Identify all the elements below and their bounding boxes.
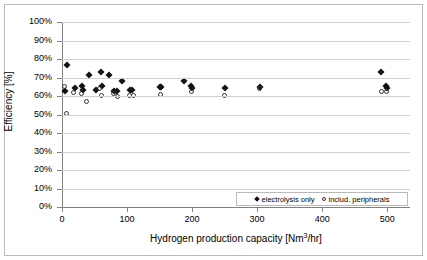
gridline — [62, 133, 410, 134]
y-axis-title: Efficiency [%] — [3, 22, 14, 182]
data-point-electrolysis-only — [64, 61, 71, 68]
gridline — [62, 170, 410, 171]
gridline — [62, 22, 410, 23]
data-point-includ-peripherals — [97, 86, 102, 91]
x-tick-label: 200 — [172, 214, 212, 224]
gridline — [62, 115, 410, 116]
x-axis-title: Hydrogen production capacity [Nm3/hr] — [62, 232, 410, 244]
data-point-includ-peripherals — [71, 90, 76, 95]
y-tick-label: 10% — [0, 184, 52, 193]
x-tick-label: 400 — [302, 214, 342, 224]
x-tick-label: 100 — [107, 214, 147, 224]
data-point-electrolysis-only — [97, 68, 104, 75]
data-point-includ-peripherals — [384, 89, 389, 94]
y-axis-title-text: Efficiency [%] — [3, 72, 14, 132]
data-point-includ-peripherals — [257, 86, 262, 91]
x-tick-label: 500 — [367, 214, 407, 224]
x-axis-line — [62, 207, 410, 208]
data-point-includ-peripherals — [84, 99, 89, 104]
plot-area — [62, 22, 410, 207]
legend-item-electrolysis-only: electrolysis only — [255, 195, 315, 204]
x-tick-mark — [62, 207, 63, 212]
x-tick-label: 300 — [237, 214, 277, 224]
y-tick-label: 0% — [0, 202, 52, 211]
x-tick-label: 0 — [42, 214, 82, 224]
x-tick-mark — [387, 207, 388, 212]
gridline — [62, 78, 410, 79]
x-tick-mark — [257, 207, 258, 212]
gridline — [62, 189, 410, 190]
legend-label: electrolysis only — [262, 195, 315, 204]
x-tick-mark — [322, 207, 323, 212]
chart-legend: electrolysis only includ. peripherals — [236, 192, 408, 206]
data-point-includ-peripherals — [62, 84, 67, 89]
x-axis-title-text: Hydrogen production capacity [Nm3/hr] — [150, 233, 322, 244]
x-tick-mark — [127, 207, 128, 212]
chart-root: 0%10%20%30%40%50%60%70%80%90%100% 010020… — [0, 0, 427, 260]
data-point-electrolysis-only — [377, 68, 384, 75]
gridline — [62, 41, 410, 42]
open-circle-icon — [322, 197, 326, 201]
gridline — [62, 96, 410, 97]
data-point-includ-peripherals — [189, 89, 194, 94]
legend-label: includ. peripherals — [329, 195, 390, 204]
data-point-electrolysis-only — [221, 84, 228, 91]
gridline — [62, 152, 410, 153]
filled-diamond-icon — [254, 196, 260, 202]
legend-item-includ-peripherals: includ. peripherals — [322, 195, 390, 204]
x-tick-mark — [192, 207, 193, 212]
gridline — [62, 59, 410, 60]
data-point-electrolysis-only — [157, 84, 164, 91]
